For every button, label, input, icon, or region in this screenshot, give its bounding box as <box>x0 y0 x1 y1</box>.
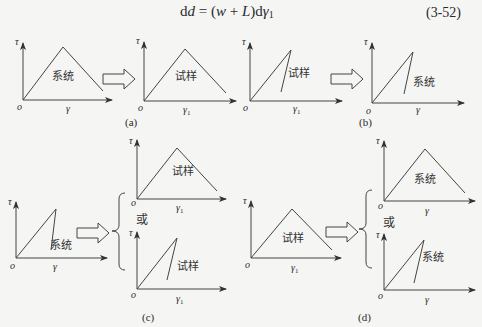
gamma1-label: γ1 <box>291 263 298 275</box>
system-label: 系统 <box>413 77 435 88</box>
tau-label: τ <box>376 136 380 146</box>
tau-label: τ <box>242 37 246 47</box>
tau-label: τ <box>243 196 247 206</box>
tau-label: τ <box>364 37 368 47</box>
hollow-arrow-d <box>326 222 358 242</box>
tau-label: τ <box>376 230 380 240</box>
specimen-label: 试样 <box>172 166 194 177</box>
gamma-label: γ <box>66 104 70 114</box>
system-label: 系统 <box>50 240 72 251</box>
specimen-label: 试样 <box>288 68 310 79</box>
brace-c <box>112 193 125 270</box>
gamma1-label: γ1 <box>183 105 190 117</box>
gamma-label: γ <box>416 105 420 115</box>
system-label: 系统 <box>422 252 444 263</box>
tau-label: τ <box>129 136 133 146</box>
gamma-label: γ <box>425 206 429 216</box>
origin-label: o <box>245 260 250 270</box>
origin-label: o <box>131 198 136 208</box>
origin-label: o <box>17 102 22 112</box>
origin-label: o <box>366 106 371 116</box>
tau-label: τ <box>8 197 12 207</box>
tau-label: τ <box>15 37 19 47</box>
system-label: 系统 <box>52 71 74 82</box>
origin-label: o <box>138 103 143 113</box>
gamma-label: γ <box>53 262 57 272</box>
caption-b: (b) <box>359 117 372 128</box>
brace-d <box>359 190 372 268</box>
or-label: 或 <box>383 217 395 229</box>
eq-var-w: w <box>216 3 226 19</box>
hollow-arrow-b <box>331 69 363 89</box>
eq-d: d <box>180 3 188 19</box>
gamma1-label: γ1 <box>293 104 300 116</box>
origin-label: o <box>131 290 136 300</box>
system-label: 系统 <box>414 174 436 185</box>
or-label: 或 <box>136 214 148 226</box>
hollow-arrow-a <box>103 69 135 89</box>
eq-sub: 1 <box>269 9 274 20</box>
eq-plus: + <box>226 3 242 19</box>
diagram-lines <box>0 0 482 327</box>
graph-b-right <box>372 43 464 103</box>
caption-c: (c) <box>142 312 154 323</box>
origin-label: o <box>243 103 248 113</box>
eq-equals: = ( <box>195 3 216 19</box>
gamma1-label: γ1 <box>176 294 183 306</box>
eq-close: )d <box>250 3 263 19</box>
origin-label: o <box>10 261 15 271</box>
specimen-label: 试样 <box>175 71 197 82</box>
origin-label: o <box>378 291 383 301</box>
caption-a: (a) <box>125 117 137 128</box>
gamma-label: γ <box>425 295 429 305</box>
figure-3-52: dd = (w + L)dγ1 (3-52) τ o γ 系统 τ o γ1 试… <box>0 0 482 327</box>
gamma1-label: γ1 <box>176 203 183 215</box>
graph-d-right-top <box>384 141 475 201</box>
caption-d: (d) <box>358 312 371 323</box>
equation-number: (3-52) <box>426 6 461 20</box>
eq-var-d: d <box>188 3 196 19</box>
specimen-label: 试样 <box>282 233 304 244</box>
equation: dd = (w + L)dγ1 <box>180 4 274 20</box>
tau-label: τ <box>129 228 133 238</box>
origin-label: o <box>378 201 383 211</box>
graph-d-left <box>251 201 341 258</box>
tau-label: τ <box>136 36 140 46</box>
hollow-arrow-c <box>77 223 109 243</box>
specimen-label: 试样 <box>177 261 199 272</box>
